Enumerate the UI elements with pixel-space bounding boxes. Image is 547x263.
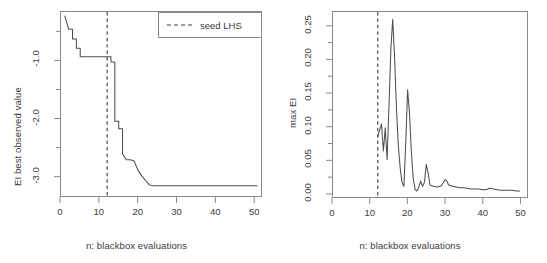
x-tick-label: 0: [44, 206, 76, 217]
legend-dashed-line-icon: [167, 22, 193, 28]
x-tick-label: 40: [467, 207, 499, 218]
left-axis-ticks: [0, 0, 273, 263]
y-tick-label: 0.00: [302, 175, 313, 209]
y-tick-label: 0.20: [302, 41, 313, 75]
y-tick-label: -3.0: [30, 158, 41, 192]
x-tick-label: 30: [429, 207, 461, 218]
x-tick-label: 50: [238, 206, 270, 217]
right-axis-ticks: [273, 0, 547, 263]
legend-seed-lhs: seed LHS: [158, 12, 262, 38]
y-tick-label: 0.10: [302, 108, 313, 142]
x-tick-label: 50: [504, 207, 536, 218]
y-tick-label: -1.0: [30, 42, 41, 76]
x-tick-label: 10: [354, 207, 386, 218]
x-tick-label: 0: [316, 207, 348, 218]
y-tick-label: 0.05: [302, 142, 313, 176]
right-x-axis-title: n: blackbox evaluations: [273, 240, 547, 251]
legend-label-seed-lhs: seed LHS: [200, 20, 242, 31]
figure-root: EI best observed value -3.0-2.0-1.0 0102…: [0, 0, 547, 263]
x-tick-label: 20: [391, 207, 423, 218]
y-tick-label: 0.15: [302, 75, 313, 109]
x-tick-label: 40: [199, 206, 231, 217]
chart-panel-right: max EI 0.000.050.100.150.200.25 01020304…: [273, 0, 547, 263]
y-tick-label: 0.25: [302, 7, 313, 41]
x-tick-label: 20: [122, 206, 154, 217]
chart-panel-left: EI best observed value -3.0-2.0-1.0 0102…: [0, 0, 273, 263]
x-tick-label: 30: [161, 206, 193, 217]
x-tick-label: 10: [83, 206, 115, 217]
left-x-axis-title: n: blackbox evaluations: [0, 240, 273, 251]
y-tick-label: -2.0: [30, 100, 41, 134]
